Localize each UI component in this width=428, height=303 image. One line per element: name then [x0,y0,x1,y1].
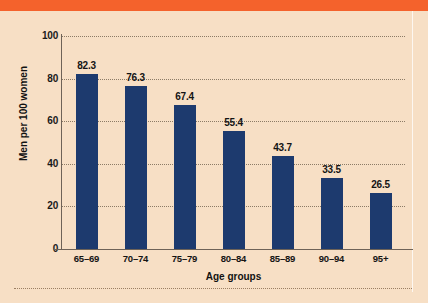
x-tick-label: 65–69 [62,253,111,264]
y-axis-title: Men per 100 women [18,54,29,174]
bar-slot: 67.4 [160,36,209,249]
y-tick-label: 80 [32,74,58,84]
bar-value-label: 43.7 [273,143,292,153]
x-tick-label: 90–94 [307,253,356,264]
bar-slot: 33.5 [307,36,356,249]
y-tick-label: 40 [32,159,58,169]
bar[interactable] [272,156,294,249]
bar-value-label: 67.4 [175,92,194,102]
y-tick-label: 60 [32,116,58,126]
bar-slot: 76.3 [111,36,160,249]
bar-value-label: 55.4 [224,118,243,128]
x-tick-label: 80–84 [209,253,258,264]
bar[interactable] [223,131,245,249]
x-axis-line [53,249,413,250]
bar[interactable] [321,178,343,249]
x-axis-title: Age groups [62,271,405,282]
bottom-dotted-rule [14,288,412,290]
x-tick-label: 95+ [356,253,405,264]
bar[interactable] [174,105,196,249]
bar-value-label: 33.5 [322,165,341,175]
bar[interactable] [125,86,147,249]
y-axis-tick-labels: 020406080100 [28,36,58,249]
y-tick-label: 100 [32,31,58,41]
x-tick-label: 75–79 [160,253,209,264]
bar[interactable] [370,193,392,249]
bar-value-label: 82.3 [77,61,96,71]
bar-slot: 82.3 [62,36,111,249]
top-orange-band [0,0,428,11]
bar-value-label: 26.5 [371,180,390,190]
x-tick-label: 85–89 [258,253,307,264]
plot-area: 82.376.367.455.443.733.526.5 [62,36,405,249]
y-tick-label: 20 [32,201,58,211]
bar-slot: 55.4 [209,36,258,249]
x-axis-tick-labels: 65–6970–7475–7980–8485–8990–9495+ [62,253,405,267]
bar-slot: 26.5 [356,36,405,249]
x-tick-label: 70–74 [111,253,160,264]
bar-value-label: 76.3 [126,73,145,83]
bar[interactable] [76,74,98,249]
bar-slot: 43.7 [258,36,307,249]
chart-figure: Men per 100 women 020406080100 82.376.36… [0,0,428,303]
